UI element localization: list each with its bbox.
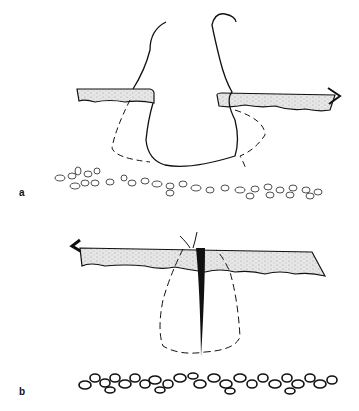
skin-left-a: [77, 89, 154, 103]
fat-layer-a: [55, 167, 322, 199]
panel-label-b: b: [19, 386, 25, 397]
suture-diagram: [0, 0, 359, 411]
panel-b: [72, 232, 337, 394]
skin-right-a: [217, 93, 335, 111]
dashed-suture-path-a: [112, 100, 265, 170]
fat-layer-b: [79, 373, 337, 394]
suture-knot: [180, 232, 197, 248]
panel-a: [55, 14, 340, 199]
panel-label-a: a: [19, 187, 25, 198]
